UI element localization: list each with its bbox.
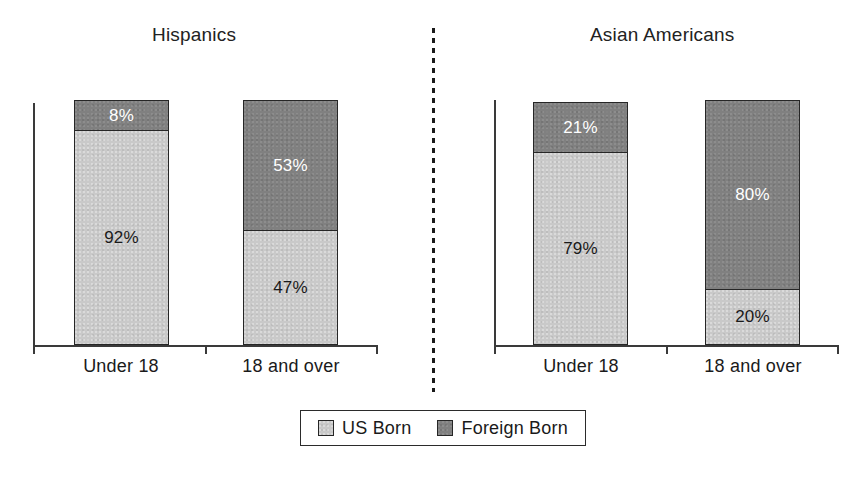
legend-item-us-born[interactable]: US Born [318, 418, 411, 439]
bar-segment-us-born: 92% [75, 131, 168, 344]
y-axis-left [33, 103, 35, 347]
x-axis-tick-right-mid [666, 345, 668, 354]
category-label-hispanics-18-and-over: 18 and over [225, 356, 357, 377]
us-born-swatch-icon [318, 420, 334, 436]
legend-item-foreign-born[interactable]: Foreign Born [437, 418, 567, 439]
bar-segment-label: 8% [109, 107, 134, 124]
panel-title-right: Asian Americans [590, 24, 735, 46]
category-label-asian-americans-under-18: Under 18 [521, 356, 641, 377]
x-axis-tick-left-start [33, 345, 35, 354]
legend-label-us-born: US Born [342, 418, 411, 439]
category-label-asian-americans-18-and-over: 18 and over [687, 356, 819, 377]
bar-segment-label: 20% [735, 308, 770, 325]
bar-segment-label: 80% [735, 186, 770, 203]
bar-hispanics-18-and-over[interactable]: 53% 47% [243, 100, 338, 345]
bar-segment-label: 21% [563, 119, 598, 136]
bar-segment-us-born: 79% [534, 153, 627, 344]
bar-asian-americans-under-18[interactable]: 21% 79% [533, 102, 628, 345]
bar-asian-americans-18-and-over[interactable]: 80% 20% [705, 100, 800, 345]
y-axis-right [494, 100, 496, 347]
category-label-hispanics-under-18: Under 18 [61, 356, 181, 377]
bar-segment-foreign-born: 80% [706, 101, 799, 290]
bar-hispanics-under-18[interactable]: 8% 92% [74, 100, 169, 345]
x-axis-tick-right-end [837, 345, 839, 354]
bar-segment-foreign-born: 8% [75, 101, 168, 131]
bar-segment-foreign-born: 21% [534, 103, 627, 153]
bar-segment-us-born: 20% [706, 290, 799, 344]
bar-segment-label: 92% [104, 229, 139, 246]
bar-segment-label: 53% [273, 157, 308, 174]
panel-title-left: Hispanics [152, 24, 236, 46]
legend: US Born Foreign Born [300, 410, 586, 446]
stacked-bar-chart-figure: Hispanics 8% 92% Under 18 53% 47% 18 and… [0, 0, 867, 478]
x-axis-tick-right-start [494, 345, 496, 354]
foreign-born-swatch-icon [437, 420, 453, 436]
bar-segment-us-born: 47% [244, 231, 337, 344]
panel-divider-dashed-line [432, 28, 435, 392]
x-axis-tick-left-mid [205, 345, 207, 354]
bar-segment-label: 79% [563, 240, 598, 257]
bar-segment-label: 47% [273, 279, 308, 296]
legend-label-foreign-born: Foreign Born [461, 418, 567, 439]
bar-segment-foreign-born: 53% [244, 101, 337, 231]
x-axis-tick-left-end [376, 345, 378, 354]
